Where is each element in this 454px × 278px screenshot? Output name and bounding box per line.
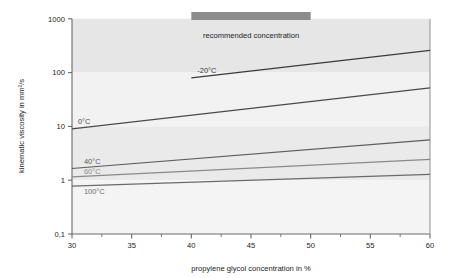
x-tick-label: 45 bbox=[247, 241, 255, 250]
viscosity-concentration-chart: 10001001010,1 30354045505560 recommended… bbox=[0, 0, 454, 278]
series-label-0c: 0°C bbox=[78, 117, 91, 126]
x-tick-label: 55 bbox=[366, 241, 374, 250]
background-band-10-1 bbox=[72, 126, 430, 180]
y-tick-label: 100 bbox=[52, 68, 65, 77]
y-axis-title: kinematic viscosity in mm²/s bbox=[17, 79, 26, 173]
x-tick-label: 35 bbox=[127, 241, 135, 250]
recommended-concentration-bar bbox=[191, 12, 310, 20]
series-label-40c: 40°C bbox=[84, 157, 101, 166]
background-bands bbox=[72, 19, 430, 234]
recommended-concentration-label: recommended concentration bbox=[203, 31, 299, 40]
series-label-20c: -20°C bbox=[197, 66, 217, 75]
series-label-60c: 60°C bbox=[84, 167, 101, 176]
x-tick-label: 50 bbox=[306, 241, 314, 250]
y-tick-label: 1 bbox=[61, 176, 65, 185]
series-label-100c: 100°C bbox=[84, 187, 105, 196]
y-tick-label: 1000 bbox=[48, 15, 65, 24]
x-tick-label: 40 bbox=[187, 241, 195, 250]
chart-figure: 10001001010,1 30354045505560 recommended… bbox=[0, 0, 454, 278]
background-band-1000-100 bbox=[72, 19, 430, 73]
background-band-100-10 bbox=[72, 73, 430, 127]
x-tick-label: 60 bbox=[426, 241, 434, 250]
y-tick-label: 0,1 bbox=[54, 230, 65, 239]
x-tick-label: 30 bbox=[68, 241, 76, 250]
y-tick-label: 10 bbox=[57, 122, 65, 131]
background-band-1-0.1 bbox=[72, 180, 430, 234]
x-axis-title: propylene glycol concentration in % bbox=[191, 264, 311, 273]
